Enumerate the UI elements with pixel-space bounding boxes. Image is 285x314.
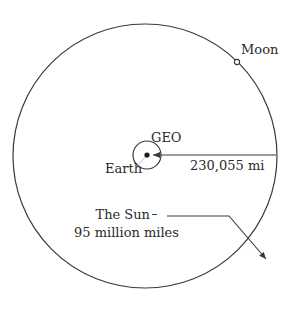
- geo-label: GEO: [151, 130, 182, 145]
- earth-dot: [144, 152, 149, 157]
- moon-label: Moon: [241, 42, 279, 57]
- moon-marker: [234, 59, 239, 64]
- sun-label: The Sun: [95, 207, 150, 222]
- earth-label: Earth: [105, 161, 143, 176]
- sun-direction-arrow: [167, 216, 266, 259]
- sun-distance-label: 95 million miles: [74, 225, 179, 240]
- moon-distance-label: 230,055 mi: [190, 158, 264, 173]
- orbit-diagram: Moon GEO Earth 230,055 mi The Sun 95 mil…: [0, 0, 285, 314]
